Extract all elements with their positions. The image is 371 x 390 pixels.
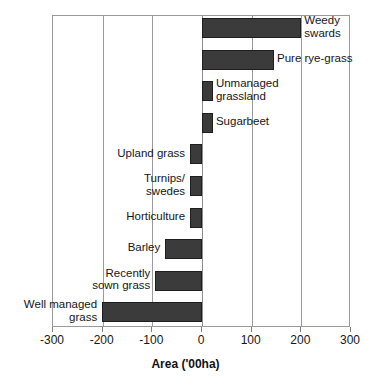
x-tick-label-0: 0	[179, 333, 223, 347]
x-tick--200	[102, 327, 103, 332]
bar	[165, 239, 202, 259]
x-tick-200	[300, 327, 301, 332]
bar	[202, 18, 301, 38]
bar-label: Weedy swards	[304, 14, 371, 39]
bar	[190, 144, 202, 164]
bar-label: Pure rye-grass	[277, 52, 371, 65]
bar	[190, 176, 202, 196]
bar-label: Unmanaged grassland	[216, 77, 326, 102]
bar-label: Well managed grass	[0, 298, 97, 323]
bar	[190, 208, 202, 228]
bar	[102, 302, 202, 322]
x-tick-0	[201, 327, 202, 332]
x-tick--300	[52, 327, 53, 332]
bar-label: Turnips/ swedes	[0, 172, 185, 197]
x-tick-label--300: -300	[30, 333, 74, 347]
x-tick--100	[151, 327, 152, 332]
x-tick-label-100: 100	[229, 333, 273, 347]
bar-label: Horticulture	[0, 210, 185, 223]
gridline--100	[152, 16, 153, 326]
x-tick-label-200: 200	[278, 333, 322, 347]
x-tick-100	[251, 327, 252, 332]
bar-chart: Weedy swardsPure rye-grassUnmanaged gras…	[0, 0, 371, 390]
x-tick-label--100: -100	[129, 333, 173, 347]
bar	[202, 113, 213, 133]
x-tick-label--200: -200	[80, 333, 124, 347]
bar	[202, 81, 213, 101]
bar-label: Sugarbeet	[216, 115, 326, 128]
x-tick-label-300: 300	[328, 333, 371, 347]
bar-label: Upland grass	[0, 147, 185, 160]
bar-label: Recently sown grass	[0, 267, 150, 292]
bar	[202, 50, 274, 70]
x-axis-title: Area ('00ha)	[0, 357, 371, 371]
bar-label: Barley	[0, 241, 160, 254]
x-tick-300	[350, 327, 351, 332]
bar	[155, 271, 202, 291]
